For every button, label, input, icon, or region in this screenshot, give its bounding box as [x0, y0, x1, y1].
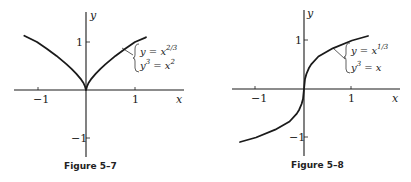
equation-2: y3 = x2: [139, 58, 176, 71]
brace: [133, 44, 139, 72]
equation-2: y3 = x: [350, 60, 382, 73]
equation-1: y = x1/3: [350, 43, 389, 56]
figure-5-7: y x −1 1 1 −1 y = x2/3 y3 = x2 Figure 5–…: [14, 9, 184, 171]
figure-caption: Figure 5–7: [64, 161, 117, 171]
pointer-line: [122, 48, 133, 55]
x-axis-label: x: [392, 92, 399, 105]
y-axis-label: y: [306, 7, 314, 20]
y-tick-label-neg1: −1: [71, 132, 87, 145]
figure-5-8: y x −1 1 1 −1 y = x1/3 y3 = x Figure 5–8: [232, 7, 400, 170]
x-tick-label-1: 1: [348, 92, 355, 105]
figure-caption: Figure 5–8: [291, 160, 344, 170]
equation-1: y = x2/3: [139, 44, 178, 57]
y-tick-label-1: 1: [76, 36, 83, 49]
y-tick-label-1: 1: [295, 34, 302, 47]
x-tick-label-neg1: −1: [33, 93, 49, 106]
y-tick-label-neg1: −1: [289, 131, 305, 144]
x-tick-label-1: 1: [132, 93, 139, 106]
y-axis-label: y: [89, 9, 97, 22]
pointer-line: [333, 48, 345, 59]
x-axis-label: x: [176, 93, 183, 106]
x-tick-label-neg1: −1: [251, 92, 267, 105]
brace: [344, 43, 350, 73]
curve-x-two-thirds: [24, 36, 146, 90]
